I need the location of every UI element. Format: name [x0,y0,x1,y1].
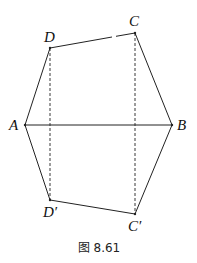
label-D: D [43,29,55,45]
edge-D-prime-C-prime [50,200,135,214]
label-D-prime: D′ [42,204,58,220]
edge-CB [135,33,172,125]
vertex-C [134,32,136,34]
edge-DC-part1 [50,37,112,48]
vertex-D-prime [49,199,51,201]
edge-DC-part2 [116,33,135,36]
edge-AD-prime [25,125,50,200]
edge-AD [25,48,50,125]
figure-caption: 图 8.61 [78,241,121,255]
label-C: C [129,13,140,29]
label-C-prime: C′ [128,218,142,234]
edge-C-prime-B [135,125,172,214]
vertex-C-prime [134,213,136,215]
label-A: A [8,117,19,133]
vertex-B [171,124,173,126]
vertex-A [24,124,26,126]
vertex-D [49,47,51,49]
geometry-figure: A B C D C′ D′ 图 8.61 [0,0,197,263]
label-B: B [177,117,186,133]
